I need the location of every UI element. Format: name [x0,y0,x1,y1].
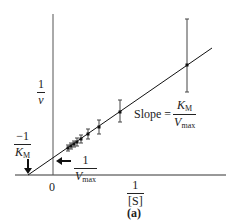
lineweaver-burk-plot [0,0,237,224]
y-intercept-label: 1 Vmax [74,154,97,184]
data-point [87,133,90,136]
data-point [76,141,79,144]
data-point [80,138,83,141]
data-point [186,64,189,67]
data-points [66,19,189,151]
y-intercept-arrow-icon [56,157,71,165]
x-intercept-label: −1 KM [14,130,31,160]
x-axis-label: 1 [S] [127,179,144,207]
data-point [119,111,122,114]
y-axis-label: 1 v [37,78,45,106]
data-point [73,143,76,146]
x-tick-zero: 0 [49,181,55,193]
x-intercept-arrow-icon [24,159,32,174]
data-point [98,126,101,129]
figure-caption: (a) [127,207,141,219]
slope-annotation: Slope = KM Vmax [134,99,196,131]
